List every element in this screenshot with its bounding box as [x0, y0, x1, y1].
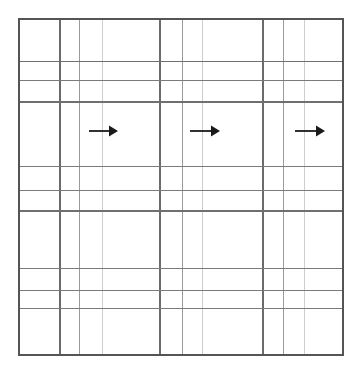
- grid-figure: [0, 0, 364, 376]
- grid-svg: [0, 0, 364, 376]
- figure-canvas: [0, 0, 364, 376]
